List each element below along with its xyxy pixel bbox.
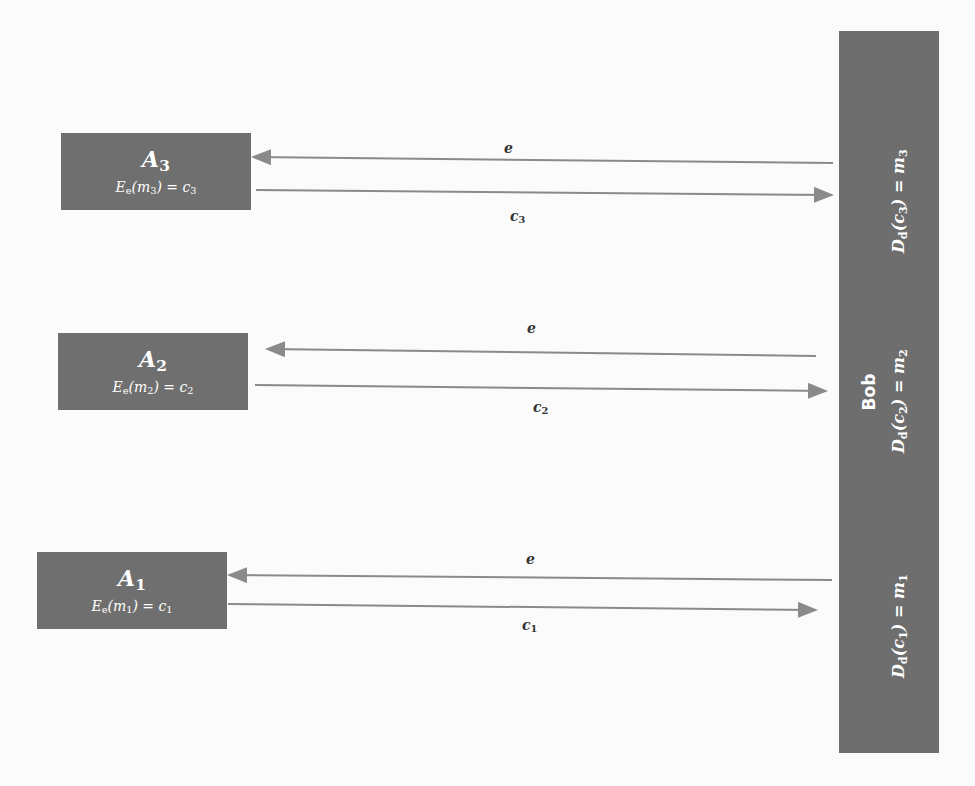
arrow-c2-to-bob xyxy=(255,385,826,391)
sender-a3-title: A3 xyxy=(142,147,170,175)
label-e-a3: e xyxy=(504,140,513,156)
label-c3: c3 xyxy=(510,208,525,225)
sender-a2-formula: Ee(m2) = c2 xyxy=(112,379,193,396)
sender-a1-title: A1 xyxy=(118,566,146,594)
arrow-c1-to-bob xyxy=(228,604,816,610)
sender-a3-formula: Ee(m3) = c3 xyxy=(115,179,196,196)
arrow-e-to-a3 xyxy=(253,157,833,163)
label-e-a1: e xyxy=(526,551,535,567)
label-e-a2: e xyxy=(527,320,536,336)
bob-decrypt-3: Dd(c3) = m3 xyxy=(889,149,910,253)
sender-a3-box: A3 Ee(m3) = c3 xyxy=(61,133,251,210)
sender-a2-title: A2 xyxy=(139,347,167,375)
arrow-e-to-a2 xyxy=(267,349,816,356)
label-c2: c2 xyxy=(533,399,548,416)
bob-decrypt-1: Dd(c1) = m1 xyxy=(889,574,910,678)
sender-a1-formula: Ee(m1) = c1 xyxy=(91,598,172,615)
label-c1: c1 xyxy=(522,617,537,634)
sender-a1-box: A1 Ee(m1) = c1 xyxy=(37,552,227,629)
arrow-c3-to-bob xyxy=(256,190,832,195)
sender-a2-box: A2 Ee(m2) = c2 xyxy=(58,333,248,410)
receiver-bob-name: Bob xyxy=(859,31,879,753)
arrow-e-to-a1 xyxy=(229,575,832,580)
receiver-bob-box: Bob Dd(c1) = m1 Dd(c2) = m2 Dd(c3) = m3 xyxy=(839,31,939,753)
bob-decrypt-2: Dd(c2) = m2 xyxy=(889,349,910,453)
